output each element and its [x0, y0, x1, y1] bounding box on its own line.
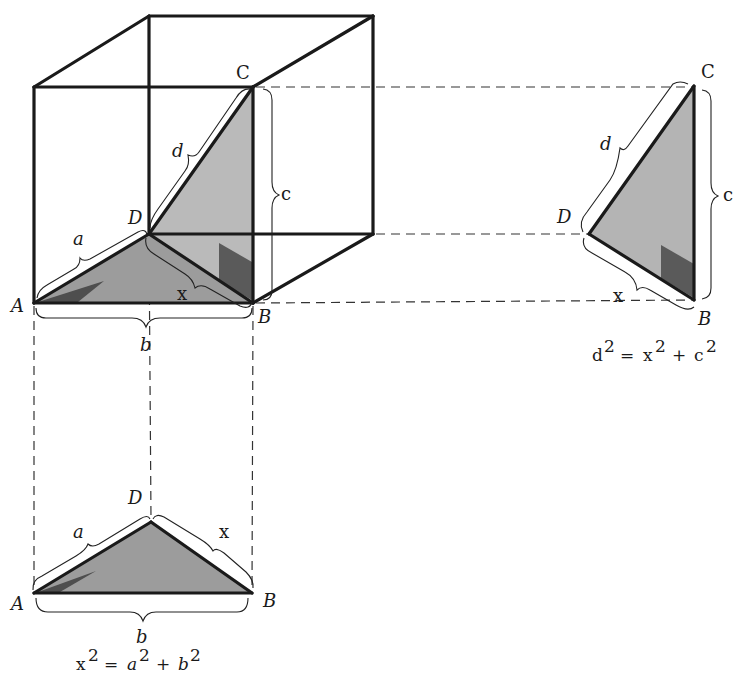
side-view-triangle: C D B d c x d 2 = x 2 + c 2 — [556, 61, 733, 365]
projection-line-b-down — [252, 306, 253, 590]
top-vertex-label-b: B — [262, 590, 276, 611]
side-eq-rhs1-exp: 2 — [655, 336, 666, 356]
side-eq-rhs2: c — [694, 345, 704, 365]
vertex-label-c: C — [236, 62, 250, 83]
edge-label-b: b — [140, 334, 152, 355]
side-equation: d 2 = x 2 + c 2 — [592, 336, 717, 365]
top-vertex-label-a: A — [9, 593, 24, 614]
top-brace-b — [36, 598, 248, 621]
side-edge-label-x: x — [613, 285, 623, 306]
edge-bottom-right-depth — [253, 234, 373, 303]
top-eq-lhs-exp: 2 — [88, 645, 99, 665]
top-edge-label-a: a — [73, 521, 84, 542]
top-eq-plus: + — [156, 654, 170, 674]
edge-top-right-depth — [253, 16, 373, 87]
side-edge-label-c: c — [723, 184, 733, 205]
brace-c — [263, 89, 279, 300]
vertex-label-a: A — [9, 295, 24, 316]
side-vertex-label-b: B — [697, 308, 711, 329]
side-eq-rhs2-exp: 2 — [706, 336, 717, 356]
edge-top-left-depth — [34, 16, 149, 87]
top-vertex-label-d: D — [127, 487, 143, 508]
side-vertex-label-c: C — [701, 61, 715, 82]
top-eq-rhs2-exp: 2 — [190, 645, 201, 665]
top-eq-equals: = — [104, 654, 118, 674]
top-eq-rhs1-exp: 2 — [139, 645, 150, 665]
top-view-triangle: A D B a x b x 2 = a 2 + b 2 — [9, 487, 276, 674]
top-eq-rhs2: b — [178, 654, 189, 674]
projection-line-b — [256, 300, 694, 303]
edge-label-c: c — [281, 183, 291, 204]
top-edge-label-b: b — [136, 626, 148, 647]
side-eq-lhs-exp: 2 — [604, 336, 615, 356]
side-brace-c — [702, 90, 718, 299]
top-eq-rhs1: a — [127, 654, 137, 674]
brace-b — [36, 308, 252, 327]
top-eq-lhs: x — [76, 654, 86, 674]
side-eq-lhs: d — [592, 345, 603, 365]
top-edge-label-x: x — [219, 521, 229, 542]
side-eq-plus: + — [672, 345, 686, 365]
side-vertex-label-d: D — [556, 206, 572, 227]
diagram-svg: A B C D a b c d x C D B d c x d 2 = x 2 … — [0, 0, 747, 688]
edge-label-x: x — [177, 283, 187, 304]
side-edge-label-d: d — [600, 133, 612, 154]
top-equation: x 2 = a 2 + b 2 — [76, 645, 201, 674]
side-eq-equals: = — [620, 345, 634, 365]
vertex-label-d: D — [127, 207, 143, 228]
projection-lines — [34, 87, 694, 590]
edge-label-d: d — [172, 140, 184, 161]
edge-label-a: a — [73, 228, 84, 249]
cube: A B C D a b c d x — [9, 16, 373, 355]
vertex-label-b: B — [257, 306, 271, 327]
side-eq-rhs1: x — [643, 345, 653, 365]
diagram-canvas: A B C D a b c d x C D B d c x d 2 = x 2 … — [0, 0, 747, 688]
